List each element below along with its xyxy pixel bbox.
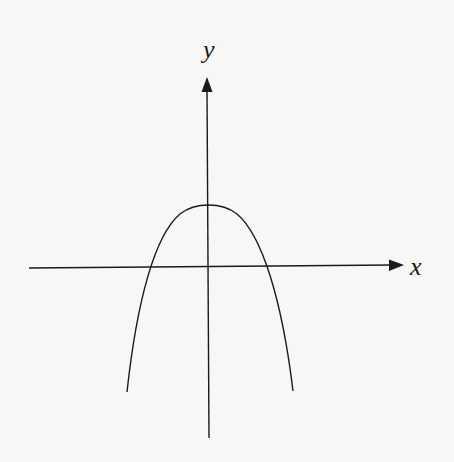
x-axis [29, 265, 392, 268]
x-axis-label: x [409, 252, 422, 281]
parabola-curve [127, 205, 293, 392]
parabola-diagram: y x [0, 0, 454, 462]
y-axis [207, 90, 209, 438]
x-axis-arrow-icon [389, 260, 404, 272]
y-axis-label: y [200, 35, 215, 64]
y-axis-arrow-icon [202, 77, 213, 92]
